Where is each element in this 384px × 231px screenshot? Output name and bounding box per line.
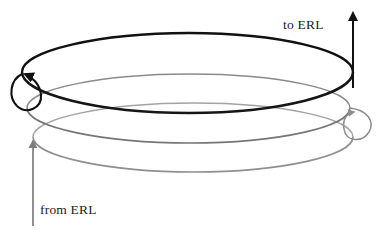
- to-erl-label: to ERL: [283, 17, 324, 33]
- from-erl-label: from ERL: [40, 202, 97, 218]
- spiral-turn-upper: [22, 33, 353, 113]
- spiral-diagram-canvas: [0, 0, 384, 231]
- spiral-beam-diagram: to ERL from ERL: [0, 0, 384, 231]
- spiral-turn-middle: [27, 74, 350, 143]
